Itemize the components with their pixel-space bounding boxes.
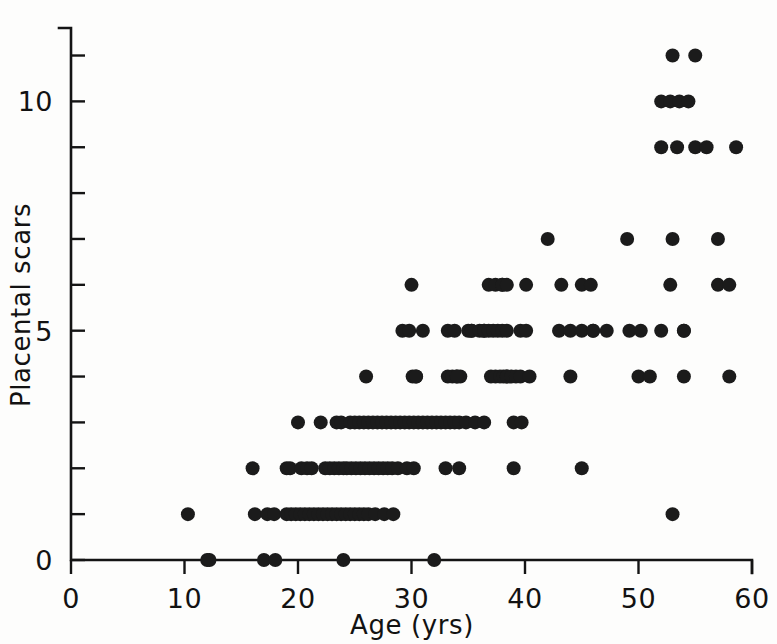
plot-canvas: 05100102030405060 Age (yrs) Placental sc… [0, 0, 777, 644]
data-point [500, 324, 514, 338]
axes-group [59, 28, 752, 573]
data-point [267, 507, 281, 521]
data-point [500, 278, 514, 292]
data-point [666, 49, 680, 63]
x-tick-label-40: 40 [507, 583, 542, 614]
data-point [554, 278, 568, 292]
data-point [409, 370, 423, 384]
data-point [507, 461, 521, 475]
data-point [722, 278, 736, 292]
data-point [359, 370, 373, 384]
data-point [477, 415, 491, 429]
data-point [291, 415, 305, 429]
data-point [541, 232, 555, 246]
data-point [670, 140, 684, 154]
data-point [666, 232, 680, 246]
data-point [700, 140, 714, 154]
data-point [439, 461, 453, 475]
data-point [523, 370, 537, 384]
data-point [452, 461, 466, 475]
x-tick-label-20: 20 [280, 583, 315, 614]
data-point [405, 278, 419, 292]
data-point [305, 461, 319, 475]
data-point [681, 94, 695, 108]
data-point [634, 324, 648, 338]
data-point [654, 324, 668, 338]
axis-spine [59, 28, 752, 573]
data-point [427, 553, 441, 567]
data-points-group [181, 49, 743, 567]
x-tick-label-0: 0 [62, 583, 80, 614]
data-point [677, 370, 691, 384]
data-point [268, 553, 282, 567]
data-point [181, 507, 195, 521]
data-point [654, 140, 668, 154]
data-point [663, 278, 677, 292]
data-point [722, 370, 736, 384]
data-point [386, 507, 400, 521]
data-point [620, 232, 634, 246]
data-point [246, 461, 260, 475]
data-point [729, 140, 743, 154]
data-point [666, 507, 680, 521]
data-point [688, 49, 702, 63]
data-point [450, 370, 464, 384]
data-point [336, 553, 350, 567]
data-point [519, 324, 533, 338]
x-tick-label-60: 60 [734, 583, 769, 614]
tick-labels-group: 05100102030405060 [18, 86, 770, 614]
data-point [314, 415, 328, 429]
data-point [448, 324, 462, 338]
y-tick-label-10: 10 [18, 86, 53, 117]
data-point [584, 278, 598, 292]
data-point [402, 324, 416, 338]
data-point [416, 324, 430, 338]
data-point [643, 370, 657, 384]
data-point [202, 553, 216, 567]
scatter-plot-figure: 05100102030405060 Age (yrs) Placental sc… [0, 0, 777, 644]
data-point [519, 278, 533, 292]
data-point [711, 232, 725, 246]
x-tick-label-10: 10 [167, 583, 202, 614]
x-axis-title: Age (yrs) [350, 610, 474, 640]
y-axis-title: Placental scars [6, 203, 36, 407]
data-point [515, 415, 529, 429]
y-tick-label-0: 0 [35, 545, 53, 576]
x-tick-label-50: 50 [621, 583, 656, 614]
data-point [407, 461, 421, 475]
y-tick-label-5: 5 [35, 316, 53, 347]
data-point [575, 461, 589, 475]
data-point [600, 324, 614, 338]
data-point [677, 324, 691, 338]
data-point [563, 370, 577, 384]
data-point [586, 324, 600, 338]
ticks-group [71, 56, 752, 574]
data-point [248, 507, 262, 521]
